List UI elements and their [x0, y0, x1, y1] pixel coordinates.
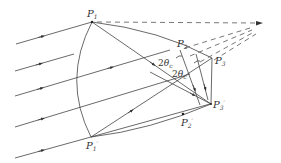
label-p2-prime: P2′: [180, 117, 194, 129]
incoming-rays: [15, 22, 190, 158]
label-p2: P2: [176, 38, 188, 50]
label-p1: P1: [86, 8, 98, 20]
label-p3: P3: [214, 55, 226, 67]
exit-aperture: [211, 58, 212, 104]
angle-arc-2: [194, 61, 200, 63]
angle-label-2: 2θc: [172, 69, 187, 80]
upper-profile-curve: [92, 22, 212, 58]
entrance-arc: [77, 22, 92, 137]
optics-diagram: P1 P2 P3 P1′ P2′ P3′ 2θc 2θc: [0, 0, 281, 163]
angle-label-1: 2θc: [158, 58, 173, 69]
angle-arc-1: [176, 56, 182, 58]
incoming-ray-5: [15, 137, 91, 158]
label-p3-prime: P3′: [212, 99, 226, 111]
focus-arrow-icon: [256, 21, 263, 26]
label-p1-prime: P1′: [85, 140, 99, 152]
incoming-ray-2: [15, 54, 74, 71]
incoming-ray-1: [16, 22, 92, 44]
